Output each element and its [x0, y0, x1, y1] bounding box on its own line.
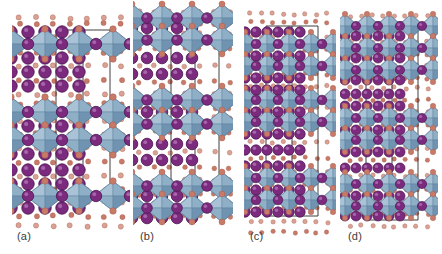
atom-sphere [118, 15, 123, 20]
atom-sphere [119, 78, 124, 83]
atom-sphere [351, 21, 360, 30]
atom-sphere [34, 22, 39, 27]
atom-sphere [308, 29, 314, 35]
atom-sphere [281, 139, 285, 143]
atom-sphere [408, 125, 414, 131]
atom-sphere [142, 181, 153, 192]
atom-sphere [270, 20, 274, 24]
atom-sphere [68, 16, 73, 21]
atom-sphere [364, 169, 370, 175]
atom-sphere [386, 215, 392, 221]
atom-sphere [213, 149, 218, 154]
atom-sphere [133, 68, 138, 80]
atom-sphere [371, 224, 375, 228]
atom-sphere [273, 107, 283, 117]
atom-sphere [86, 159, 91, 164]
atom-sphere [50, 213, 55, 218]
atom-sphere [395, 211, 405, 221]
atom-sphere [351, 65, 360, 74]
atom-sphere [295, 173, 305, 183]
atom-sphere [172, 203, 183, 214]
atom-sphere [219, 135, 225, 141]
atom-sphere [371, 158, 375, 162]
atom-sphere [386, 103, 392, 109]
atom-sphere [384, 89, 394, 99]
atom-sphere [382, 86, 386, 90]
atom-sphere [348, 224, 352, 228]
atom-sphere [351, 89, 361, 99]
atom-sphere [308, 209, 314, 215]
atom-sphere [373, 113, 382, 122]
atom-sphere [317, 195, 327, 205]
atom-sphere [314, 220, 318, 224]
atom-sphere [90, 38, 101, 49]
atom-sphere [262, 145, 272, 155]
atom-sphere [295, 51, 305, 61]
atom-sphere [142, 95, 153, 106]
panel-label-a: (a) [17, 231, 31, 242]
atom-sphere [51, 224, 56, 229]
atom-sphere [286, 131, 292, 137]
atom-sphere [317, 61, 327, 71]
atom-sphere [273, 73, 283, 83]
atom-sphere [373, 53, 383, 63]
atom-sphere [212, 79, 217, 84]
atom-sphere [308, 107, 314, 113]
atom-sphere [69, 174, 74, 179]
atom-sphere [286, 75, 292, 81]
atom-sphere [295, 95, 305, 105]
atom-sphere [286, 85, 292, 91]
atom-sphere [251, 107, 261, 117]
atom-sphere [141, 190, 153, 202]
atom-sphere [351, 211, 361, 221]
atom-sphere [141, 154, 153, 166]
atom-sphere [244, 185, 248, 191]
atom-sphere [251, 39, 261, 49]
atom-sphere [342, 149, 348, 155]
structure-diagram-d [340, 0, 438, 254]
atom-sphere [137, 63, 142, 68]
atom-sphere [172, 13, 183, 24]
atom-sphere [430, 79, 436, 85]
atom-sphere [159, 169, 165, 175]
atom-sphere [351, 125, 361, 135]
atom-sphere [152, 165, 157, 170]
atom-sphere [273, 51, 283, 61]
atom-sphere [415, 85, 419, 89]
atom-sphere [42, 26, 49, 33]
atom-sphere [417, 43, 426, 52]
atom-sphere [430, 169, 436, 175]
atom-sphere [136, 150, 141, 155]
atom-sphere [244, 209, 248, 215]
atom-sphere [110, 152, 117, 159]
atom-sphere [67, 21, 72, 26]
atom-sphere [102, 159, 107, 164]
atom-sphere [381, 98, 385, 102]
atom-sphere [183, 149, 188, 154]
atom-sphere [373, 201, 382, 210]
atom-sphere [202, 95, 213, 106]
atom-sphere [101, 15, 106, 20]
atom-sphere [292, 219, 296, 223]
atom-sphere [281, 229, 285, 233]
atom-sphere [395, 201, 404, 210]
atom-sphere [251, 95, 261, 105]
atom-sphere [373, 65, 382, 74]
atom-sphere [303, 219, 307, 223]
atom-sphere [271, 229, 275, 233]
atom-sphere [330, 131, 336, 137]
atom-sphere [244, 163, 248, 169]
atom-sphere [403, 157, 407, 161]
atom-sphere [330, 163, 336, 169]
atom-sphere [373, 89, 383, 99]
atom-sphere [219, 191, 225, 197]
atom-sphere [251, 61, 261, 71]
atom-sphere [247, 11, 251, 15]
atom-sphere [325, 140, 329, 144]
atom-sphere [159, 83, 165, 89]
atom-sphere [430, 33, 436, 39]
atom-sphere [119, 159, 124, 164]
atom-sphere [219, 219, 225, 225]
atom-sphere [213, 63, 218, 68]
atom-sphere [282, 219, 286, 223]
